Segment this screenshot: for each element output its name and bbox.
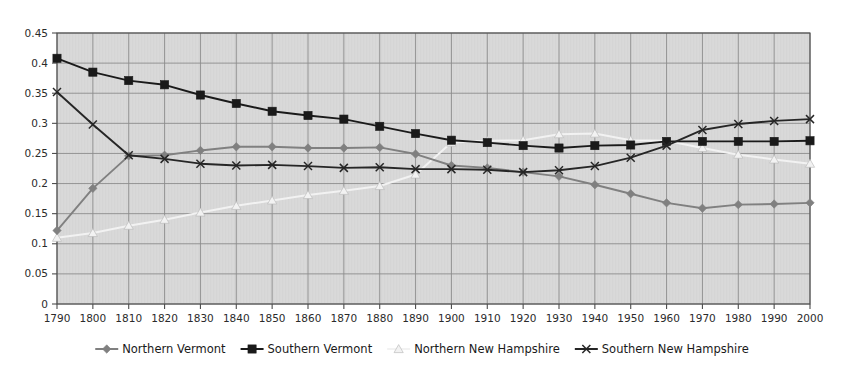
texture-stripe [804, 33, 805, 304]
texture-stripe [117, 33, 118, 304]
texture-stripe [294, 33, 295, 304]
texture-stripe [750, 33, 751, 304]
texture-stripe [264, 33, 265, 304]
texture-stripe [735, 33, 736, 304]
texture-stripe [321, 33, 322, 304]
legend-label: Southern Vermont [268, 342, 373, 356]
texture-stripe [84, 33, 85, 304]
texture-stripe [783, 33, 784, 304]
texture-stripe [603, 33, 604, 304]
texture-stripe [732, 33, 733, 304]
y-axis-tick-label: 0.45 [25, 27, 48, 39]
texture-stripe [645, 33, 646, 304]
texture-stripe [801, 33, 802, 304]
x-axis-tick-label: 1840 [223, 312, 250, 324]
texture-stripe [159, 33, 160, 304]
texture-stripe [333, 33, 334, 304]
texture-stripe [717, 33, 718, 304]
y-axis-tick-label: 0.1 [31, 237, 48, 249]
texture-stripe [564, 33, 565, 304]
data-point-marker [447, 136, 455, 144]
texture-stripe [129, 33, 130, 304]
legend-label: Northern Vermont [122, 342, 226, 356]
texture-stripe [729, 33, 730, 304]
texture-stripe [792, 33, 793, 304]
texture-stripe [780, 33, 781, 304]
texture-stripe [192, 33, 193, 304]
texture-stripe [81, 33, 82, 304]
y-axis: 00.050.10.150.20.250.30.350.40.45 [25, 27, 57, 310]
texture-stripe [231, 33, 232, 304]
texture-stripe [660, 33, 661, 304]
texture-stripe [711, 33, 712, 304]
texture-stripe [75, 33, 76, 304]
texture-stripe [534, 33, 535, 304]
texture-stripe [477, 33, 478, 304]
texture-stripe [156, 33, 157, 304]
x-axis-tick-label: 1980 [725, 312, 752, 324]
texture-stripe [675, 33, 676, 304]
texture-stripe [606, 33, 607, 304]
x-axis-tick-label: 1950 [617, 312, 644, 324]
texture-stripe [69, 33, 70, 304]
x-axis: 1790180018101820183018401850186018701880… [44, 304, 824, 324]
x-axis-tick-label: 1870 [330, 312, 357, 324]
texture-stripe [369, 33, 370, 304]
texture-stripe [777, 33, 778, 304]
texture-stripe [480, 33, 481, 304]
texture-stripe [654, 33, 655, 304]
texture-stripe [261, 33, 262, 304]
texture-stripe [366, 33, 367, 304]
x-axis-tick-label: 1800 [79, 312, 106, 324]
texture-stripe [153, 33, 154, 304]
texture-stripe [693, 33, 694, 304]
texture-stripe [696, 33, 697, 304]
texture-stripe [144, 33, 145, 304]
texture-stripe [474, 33, 475, 304]
data-point-marker [483, 139, 491, 147]
texture-stripe [600, 33, 601, 304]
texture-stripe [636, 33, 637, 304]
texture-stripe [726, 33, 727, 304]
texture-stripe [174, 33, 175, 304]
texture-stripe [78, 33, 79, 304]
texture-stripe [225, 33, 226, 304]
texture-stripe [513, 33, 514, 304]
texture-stripe [243, 33, 244, 304]
texture-stripe [621, 33, 622, 304]
data-point-marker [268, 107, 276, 115]
texture-stripe [105, 33, 106, 304]
texture-stripe [126, 33, 127, 304]
texture-stripe [687, 33, 688, 304]
texture-stripe [297, 33, 298, 304]
data-point-marker [53, 54, 61, 62]
texture-stripe [318, 33, 319, 304]
texture-stripe [330, 33, 331, 304]
x-axis-tick-label: 1860 [295, 312, 322, 324]
texture-stripe [639, 33, 640, 304]
texture-stripe [249, 33, 250, 304]
texture-stripe [141, 33, 142, 304]
texture-stripe [135, 33, 136, 304]
texture-stripe [228, 33, 229, 304]
texture-stripe [216, 33, 217, 304]
texture-stripe [642, 33, 643, 304]
texture-stripe [123, 33, 124, 304]
line-chart: 00.050.10.150.20.250.30.350.40.451790180… [0, 0, 843, 369]
texture-stripe [198, 33, 199, 304]
legend-item-northern-vermont[interactable]: Northern Vermont [95, 342, 226, 356]
data-point-marker [734, 137, 742, 145]
data-point-marker [806, 137, 814, 145]
y-axis-tick-label: 0.4 [31, 57, 48, 69]
texture-stripe [246, 33, 247, 304]
texture-stripe [177, 33, 178, 304]
legend-item-southern-vermont[interactable]: Southern Vermont [241, 342, 373, 356]
texture-stripe [213, 33, 214, 304]
legend-item-northern-new-hampshire[interactable]: Northern New Hampshire [387, 342, 560, 356]
legend-item-southern-new-hampshire[interactable]: Southern New Hampshire [575, 342, 749, 356]
texture-stripe [222, 33, 223, 304]
texture-stripe [273, 33, 274, 304]
x-axis-tick-label: 1960 [653, 312, 680, 324]
texture-stripe [690, 33, 691, 304]
texture-stripe [585, 33, 586, 304]
